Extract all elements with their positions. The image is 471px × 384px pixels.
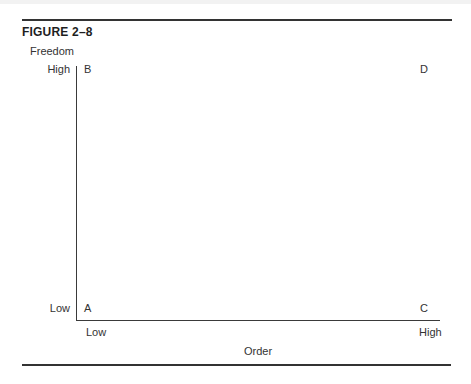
corner-label-c: C [420, 302, 428, 314]
x-axis-low-label: Low [86, 326, 106, 338]
y-axis-low-label: Low [40, 302, 70, 314]
x-axis-high-label: High [419, 326, 442, 338]
corner-label-d: D [420, 63, 428, 75]
figure-label: FIGURE 2–8 [22, 25, 93, 39]
bottom-rule [22, 364, 451, 366]
x-axis-line [76, 320, 440, 321]
corner-label-b: B [84, 63, 91, 75]
corner-label-a: A [84, 302, 91, 314]
y-axis-title: Freedom [30, 45, 74, 57]
y-axis-line [76, 66, 77, 321]
page-edge-shading [0, 0, 471, 4]
top-rule [22, 19, 452, 21]
y-axis-high-label: High [40, 63, 70, 75]
x-axis-title: Order [228, 345, 288, 357]
